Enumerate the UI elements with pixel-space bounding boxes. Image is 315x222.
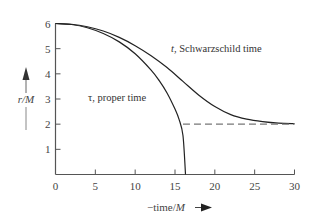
proper-time-label: τ, proper time: [88, 92, 147, 103]
right-arrow-icon: [201, 204, 212, 212]
x-tick-label: 25: [249, 180, 261, 192]
x-tick-label: 20: [209, 180, 221, 192]
x-tick-label: 0: [53, 180, 59, 192]
x-axis-label-symbol: M: [175, 201, 186, 213]
chart-canvas: 051015202530123456 t, Schwarzschild time…: [0, 0, 315, 222]
y-tick-label: 6: [45, 18, 51, 30]
y-tick-label: 4: [45, 68, 51, 80]
x-axis-title: −time/M: [147, 201, 212, 213]
y-axis-title: r/M: [18, 67, 35, 130]
y-tick-label: 5: [45, 43, 51, 55]
up-arrow-icon: [23, 67, 30, 80]
proper-time-text: , proper time: [92, 92, 146, 103]
y-tick-label: 1: [45, 143, 51, 155]
x-axis-label: −time/M: [147, 201, 186, 213]
x-tick-label: 5: [93, 180, 99, 192]
x-tick-label: 10: [130, 180, 142, 192]
y-tick-label: 3: [45, 93, 51, 105]
x-tick-label: 30: [289, 180, 301, 192]
x-tick-label: 15: [170, 180, 182, 192]
schwarzschild-text: , Schwarzschild time: [174, 43, 262, 54]
x-axis-label-prefix: −time/: [147, 201, 177, 213]
y-tick-label: 2: [45, 118, 51, 130]
schwarzschild-label: t, Schwarzschild time: [171, 43, 262, 54]
y-axis-label: r/M: [18, 93, 35, 105]
